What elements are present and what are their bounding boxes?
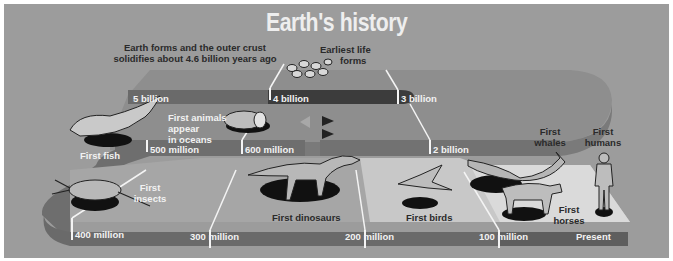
marker-200-million: 200 million [345, 231, 394, 242]
event-first-fish: First fish [80, 150, 120, 161]
caption-line: Earth forms and the outer crust [95, 42, 295, 53]
event-first-dinosaurs: First dinosaurs [272, 212, 341, 223]
worm-icon [224, 111, 270, 133]
marker-5-billion: 5 billion [133, 93, 169, 104]
marker-300-million: 300 million [190, 231, 239, 242]
event-first-humans: First humans [581, 126, 625, 148]
event-line: First [581, 126, 625, 137]
event-line: appear [168, 123, 227, 134]
marker-present: Present [576, 231, 611, 242]
caption-earth-forms: Earth forms and the outer crust solidifi… [95, 42, 295, 64]
caption-line: solidifies about 4.6 billion years ago [95, 53, 295, 64]
page-title: Earth's history [51, 8, 623, 37]
marker-600-million: 600 million [245, 144, 294, 155]
event-line: insects [130, 193, 170, 204]
marker-4-billion: 4 billion [273, 93, 309, 104]
event-line: First [549, 204, 589, 215]
event-first-whales: First whales [530, 126, 570, 148]
caption-line: Earliest life [320, 44, 371, 55]
event-line: First [530, 126, 570, 137]
event-line: humans [581, 137, 625, 148]
marker-3-billion: 3 billion [401, 93, 437, 104]
marker-2-billion: 2 billion [433, 144, 469, 155]
event-line: First animals [168, 112, 227, 123]
event-first-horses: First horses [549, 204, 589, 226]
event-line: whales [530, 137, 570, 148]
event-line: in oceans [168, 134, 227, 145]
event-first-insects: First insects [130, 182, 170, 204]
caption-line: forms [320, 55, 371, 66]
marker-400-million: 400 million [75, 229, 124, 240]
marker-500-million: 500 million [150, 144, 199, 155]
marker-100-million: 100 million [479, 231, 528, 242]
event-first-animals: First animals appear in oceans [168, 112, 227, 145]
event-line: First [130, 182, 170, 193]
caption-earliest-life: Earliest life forms [320, 44, 371, 66]
event-line: horses [549, 215, 589, 226]
event-first-birds: First birds [406, 212, 452, 223]
